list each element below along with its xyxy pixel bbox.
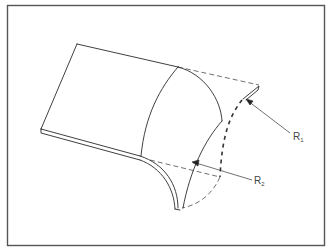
plate-front-edge [41, 129, 140, 156]
lower-curve-edge [140, 156, 178, 208]
label-r2: R2 [254, 175, 265, 187]
sweep-edge [183, 121, 222, 208]
label-r1: R1 [293, 131, 304, 143]
lower-curve-thickness [140, 160, 175, 209]
leader-r2 [196, 163, 252, 180]
sheet-outline [41, 44, 259, 210]
tip-edge [175, 209, 180, 210]
bend-start-line [141, 67, 178, 156]
upper-curve-edge [178, 67, 222, 121]
leader-r1 [248, 101, 290, 133]
r1-lip [243, 86, 259, 100]
curved-sheet-diagram: R1 R2 [0, 0, 330, 251]
dashed-arc-r1 [220, 100, 242, 177]
figure: R1 R2 [0, 0, 330, 251]
dashed-arc-lower [182, 177, 220, 208]
leaders [192, 99, 290, 180]
construction-lines [150, 67, 259, 208]
plate-thickness-edge [41, 129, 140, 160]
frame-border [8, 6, 325, 246]
plate-top-edge [77, 44, 178, 67]
projection-bottom [150, 160, 220, 177]
projection-top [178, 67, 259, 85]
plate-left-edge [41, 44, 77, 129]
